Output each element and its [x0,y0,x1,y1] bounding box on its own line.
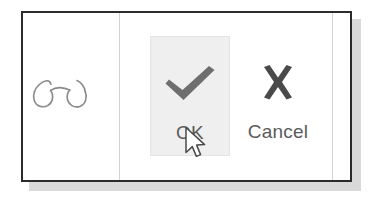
close-x-icon [235,54,321,112]
dialog-window: OK Cancel [21,11,352,182]
window-content: OK Cancel [23,13,350,180]
screenshot-root: OK Cancel [0,0,380,200]
glasses-icon[interactable] [29,75,93,113]
pane-separator-right [332,13,333,180]
left-pane [23,13,119,180]
ok-button[interactable]: OK [150,36,230,156]
pane-separator-left [119,13,120,180]
checkmark-icon [151,55,229,113]
ok-button-label: OK [151,122,229,144]
cancel-button-label: Cancel [235,121,321,143]
cancel-button[interactable]: Cancel [235,36,321,156]
